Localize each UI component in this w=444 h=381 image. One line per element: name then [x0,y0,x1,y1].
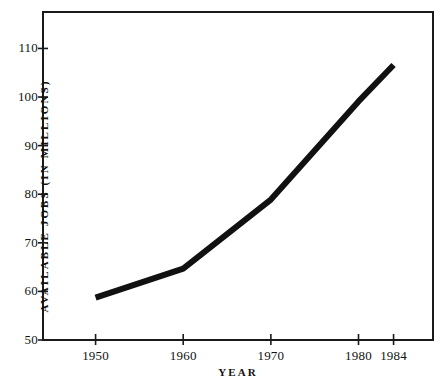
x-tick-label: 1984 [364,349,424,362]
y-axis-title-holder: AVAILABLE JOBS (IN MILLIONS) [12,30,28,330]
x-tick-label: 1950 [66,349,126,362]
x-tick-label: 1960 [153,349,213,362]
x-tick-label: 1970 [241,349,301,362]
y-axis-title: AVAILABLE JOBS (IN MILLIONS) [38,56,50,336]
y-tick-label: 50 [8,333,38,346]
line-chart: 1101009080706050 19501960197019801984 AV… [0,0,444,381]
x-axis-title: YEAR [42,366,434,378]
plot-frame [42,11,434,341]
